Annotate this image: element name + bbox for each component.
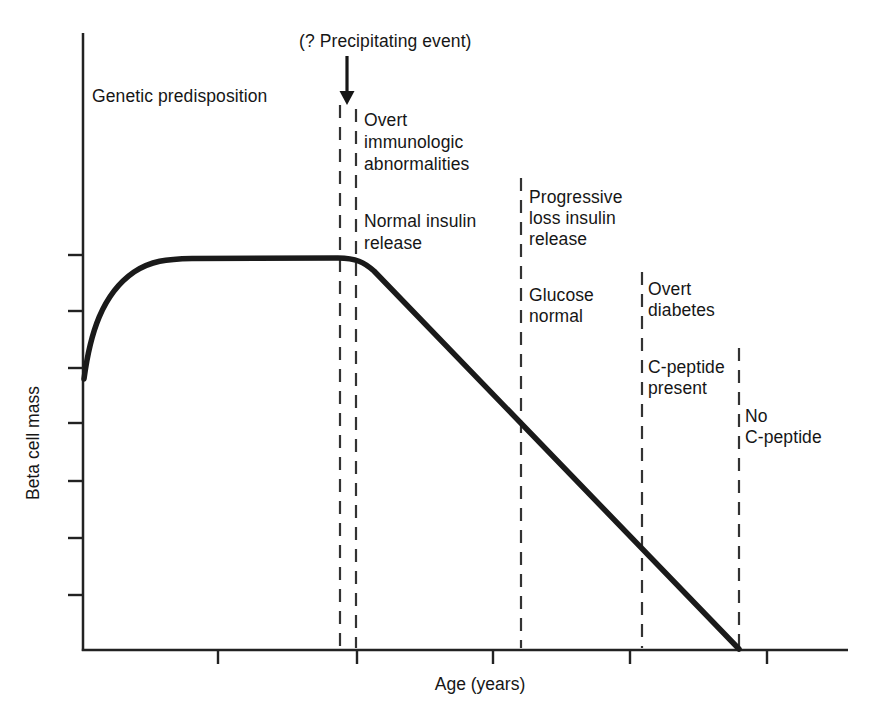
- label-no-c-peptide: No C-peptide: [745, 406, 822, 448]
- label-overt-immunologic-abnormalities: Overt immunologic abnormalities: [364, 109, 469, 175]
- label-overt-diabetes: Overt diabetes: [648, 279, 715, 321]
- x-axis-ticks: [218, 650, 767, 664]
- label-c-peptide-present: C-peptide present: [648, 357, 725, 399]
- label-progressive-loss-insulin-release: Progressive loss insulin release: [529, 187, 623, 250]
- x-axis-title: Age (years): [380, 674, 580, 695]
- beta-cell-mass-curve: [84, 258, 739, 649]
- label-glucose-normal: Glucose normal: [529, 285, 594, 327]
- y-axis-ticks: [68, 255, 83, 595]
- chart-canvas: [0, 0, 871, 719]
- beta-cell-mass-chart: Genetic predisposition (? Precipitating …: [0, 0, 871, 719]
- label-genetic-predisposition: Genetic predisposition: [92, 85, 267, 107]
- y-axis-title: Beta cell mass: [23, 386, 44, 500]
- label-precipitating-event: (? Precipitating event): [299, 30, 472, 52]
- precipitating-event-arrow: [340, 56, 355, 105]
- label-normal-insulin-release: Normal insulin release: [364, 210, 476, 254]
- arrow-head-icon: [340, 91, 355, 105]
